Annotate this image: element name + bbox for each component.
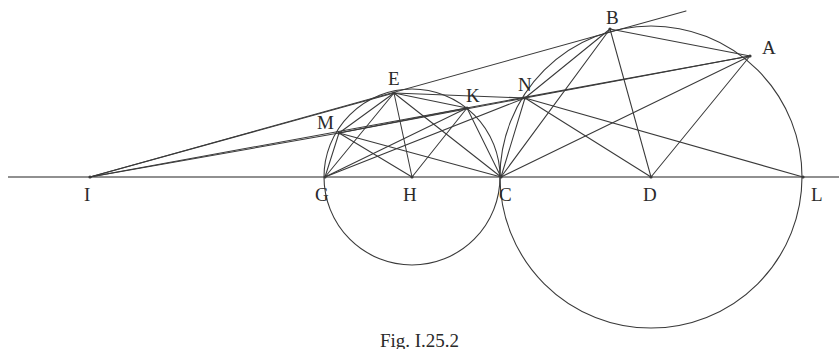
segment-B-C	[501, 29, 610, 177]
segment-I-M	[90, 133, 339, 177]
point-label-N: N	[518, 75, 532, 94]
vertex-D	[649, 175, 652, 178]
segment-K-C	[467, 108, 501, 177]
segments-group	[90, 11, 803, 177]
point-label-G: G	[315, 185, 329, 204]
figure-caption: Fig. I.25.2	[0, 330, 839, 349]
segment-K-H	[412, 108, 467, 177]
vertex-N	[523, 96, 526, 99]
segment-A-D	[651, 56, 750, 177]
point-label-H: H	[403, 185, 417, 204]
point-label-E: E	[388, 69, 400, 88]
segment-A-C	[501, 56, 750, 177]
vertex-M	[337, 131, 340, 134]
geometry-figure	[0, 0, 839, 349]
vertex-A	[748, 54, 751, 57]
segment-N-C	[501, 98, 525, 177]
segment-N-A	[525, 56, 750, 98]
vertex-G	[323, 175, 326, 178]
point-label-B: B	[606, 8, 619, 27]
segment-B-A	[610, 29, 750, 56]
segment-N-L	[525, 98, 803, 177]
point-label-M: M	[317, 113, 334, 132]
segment-N-B	[525, 29, 610, 98]
segment-M-K	[339, 108, 467, 133]
vertex-H	[410, 175, 413, 178]
point-label-A: A	[762, 38, 776, 57]
vertex-E	[392, 91, 395, 94]
vertex-C	[499, 175, 502, 178]
vertex-I	[88, 175, 91, 178]
segment-G-E	[325, 93, 394, 177]
vertices-group	[88, 27, 804, 178]
point-label-D: D	[643, 185, 657, 204]
segment-I-E	[90, 93, 394, 177]
point-label-C: C	[499, 185, 512, 204]
point-label-I: I	[84, 185, 90, 204]
vertex-K	[465, 106, 468, 109]
point-label-K: K	[466, 86, 480, 105]
point-label-L: L	[811, 185, 823, 204]
figure-page: IGHCDLMEKNBA Fig. I.25.2	[0, 0, 839, 349]
vertex-L	[801, 175, 804, 178]
